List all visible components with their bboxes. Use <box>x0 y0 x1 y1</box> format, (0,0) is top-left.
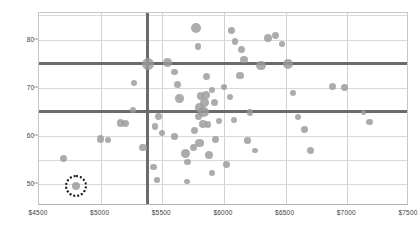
data-point-bubble[interactable] <box>247 109 254 116</box>
data-point-bubble[interactable] <box>122 120 129 127</box>
x-axis-tick-label: $6500 <box>275 209 294 216</box>
data-point-bubble[interactable] <box>131 80 137 86</box>
data-point-bubble[interactable] <box>155 113 162 120</box>
data-point-bubble[interactable] <box>203 73 210 80</box>
data-point-bubble[interactable] <box>227 94 233 100</box>
reference-line-horizontal <box>39 110 407 113</box>
y-axis-tick-mark <box>34 183 38 184</box>
x-axis-tick-label: $5000 <box>90 209 109 216</box>
y-axis-tick-label: 60 <box>22 132 34 139</box>
data-point-bubble[interactable] <box>97 135 104 142</box>
data-point-bubble[interactable] <box>366 119 373 126</box>
data-point-bubble[interactable] <box>231 117 237 123</box>
data-point-bubble[interactable] <box>205 151 213 159</box>
gridline-horizontal <box>39 184 407 185</box>
data-point-bubble[interactable] <box>154 177 160 183</box>
data-point-bubble[interactable] <box>283 59 293 69</box>
data-point-bubble[interactable] <box>184 179 190 185</box>
data-point-bubble[interactable] <box>223 161 230 168</box>
data-point-bubble[interactable] <box>252 148 258 154</box>
data-point-bubble[interactable] <box>163 58 172 67</box>
data-point-bubble[interactable] <box>307 147 315 155</box>
data-point-bubble[interactable] <box>236 72 243 79</box>
data-point-bubble[interactable] <box>175 94 183 102</box>
gridline-vertical <box>224 13 225 204</box>
data-point-bubble[interactable] <box>190 144 197 151</box>
data-point-bubble[interactable] <box>105 137 111 143</box>
data-point-bubble[interactable] <box>361 110 366 115</box>
y-axis-tick-mark <box>34 86 38 87</box>
data-point-bubble[interactable] <box>301 126 308 133</box>
data-point-bubble[interactable] <box>150 164 157 171</box>
data-point-bubble[interactable] <box>240 56 248 64</box>
highlight-ring-annotation <box>65 175 87 197</box>
y-axis-tick-label: 80 <box>22 35 34 42</box>
y-axis-tick-mark <box>34 38 38 39</box>
data-point-bubble[interactable] <box>216 118 222 124</box>
data-point-bubble[interactable] <box>295 114 301 120</box>
data-point-bubble[interactable] <box>211 99 218 106</box>
data-point-bubble[interactable] <box>279 41 285 47</box>
data-point-bubble[interactable] <box>329 83 336 90</box>
x-axis-tick-label: $6000 <box>213 209 232 216</box>
plot-area <box>38 12 408 205</box>
data-point-bubble[interactable] <box>184 159 190 165</box>
data-point-bubble[interactable] <box>205 121 212 128</box>
x-axis-tick-label: $4500 <box>28 209 47 216</box>
data-point-bubble[interactable] <box>142 58 154 70</box>
data-point-bubble[interactable] <box>152 123 158 129</box>
data-point-bubble[interactable] <box>244 137 250 143</box>
data-point-bubble[interactable] <box>209 87 215 93</box>
gridline-horizontal <box>39 15 407 16</box>
x-axis-tick-label: $7500 <box>398 209 417 216</box>
data-point-bubble[interactable] <box>209 170 215 176</box>
x-axis-tick-label: $7000 <box>337 209 356 216</box>
y-axis-tick-label: 70 <box>22 83 34 90</box>
data-point-bubble[interactable] <box>232 38 239 45</box>
gridline-vertical <box>347 13 348 204</box>
data-point-bubble[interactable] <box>290 90 296 96</box>
gridline-vertical <box>101 13 102 204</box>
data-point-bubble[interactable] <box>238 46 245 53</box>
data-point-bubble[interactable] <box>191 23 201 33</box>
gridline-horizontal <box>39 40 407 41</box>
data-point-bubble[interactable] <box>221 84 227 90</box>
x-axis-tick-label: $5500 <box>152 209 171 216</box>
y-axis-tick-label: 50 <box>22 180 34 187</box>
gridline-vertical <box>286 13 287 204</box>
gridline-horizontal <box>39 136 407 137</box>
y-axis-tick-mark <box>34 135 38 136</box>
data-point-bubble[interactable] <box>264 34 272 42</box>
data-point-bubble[interactable] <box>191 127 198 134</box>
data-point-bubble[interactable] <box>228 27 235 34</box>
gridline-vertical <box>162 13 163 204</box>
data-point-bubble[interactable] <box>256 61 266 71</box>
scatter-plot-chart: Treatment Recommended Conversion Rate (T… <box>0 0 420 235</box>
data-point-bubble[interactable] <box>212 136 219 143</box>
data-point-bubble[interactable] <box>171 133 177 139</box>
data-point-bubble[interactable] <box>130 107 136 113</box>
data-point-bubble[interactable] <box>197 92 204 99</box>
data-point-bubble[interactable] <box>181 149 190 158</box>
reference-line-horizontal <box>39 62 407 65</box>
reference-line-vertical <box>146 13 149 204</box>
data-point-bubble[interactable] <box>272 32 279 39</box>
data-point-bubble[interactable] <box>171 69 177 75</box>
data-point-bubble[interactable] <box>195 43 202 50</box>
